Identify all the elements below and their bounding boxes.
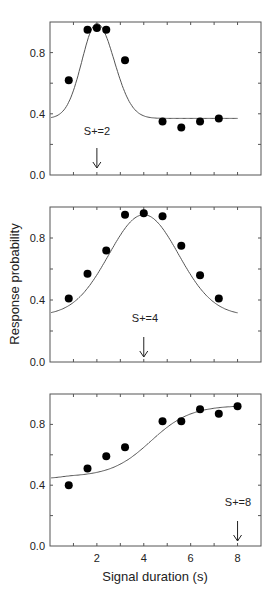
panel-top: 0.00.40.8S+=2 bbox=[30, 22, 261, 181]
data-point bbox=[65, 294, 73, 302]
fit-curve bbox=[51, 406, 237, 478]
data-point bbox=[121, 56, 129, 64]
data-point bbox=[65, 481, 73, 489]
data-point bbox=[234, 402, 242, 410]
data-point bbox=[102, 452, 110, 460]
y-tick-label: 0.4 bbox=[30, 294, 45, 306]
data-point bbox=[102, 26, 110, 34]
fit-curve bbox=[51, 215, 237, 313]
panel-bottom: 0.00.40.82468S+=8 bbox=[30, 394, 261, 564]
data-point bbox=[177, 124, 185, 132]
data-point bbox=[84, 26, 92, 34]
y-tick-label: 0.4 bbox=[30, 479, 45, 491]
data-point bbox=[140, 209, 148, 217]
y-tick-label: 0.4 bbox=[30, 108, 45, 120]
y-tick-label: 0.8 bbox=[30, 47, 45, 59]
data-point bbox=[93, 24, 101, 32]
s-plus-annotation: S+=8 bbox=[225, 496, 251, 508]
plot-frame bbox=[50, 207, 261, 362]
data-point bbox=[215, 410, 223, 418]
y-axis-label: Response probability bbox=[7, 223, 22, 345]
y-tick-label: 0.8 bbox=[30, 418, 45, 430]
fit-curve bbox=[51, 24, 237, 119]
data-point bbox=[215, 114, 223, 122]
data-point bbox=[84, 464, 92, 472]
data-point bbox=[102, 246, 110, 254]
data-point bbox=[121, 211, 129, 219]
x-tick-label: 4 bbox=[141, 552, 147, 564]
data-point bbox=[159, 117, 167, 125]
plot-frame bbox=[50, 22, 261, 175]
data-point bbox=[215, 294, 223, 302]
y-tick-label: 0.8 bbox=[30, 232, 45, 244]
s-plus-annotation: S+=4 bbox=[132, 312, 158, 324]
plot-frame bbox=[50, 394, 261, 546]
data-point bbox=[159, 212, 167, 220]
data-point bbox=[196, 405, 204, 413]
data-point bbox=[196, 117, 204, 125]
panel-middle: 0.00.40.8S+=4 bbox=[30, 207, 261, 368]
x-tick-label: 8 bbox=[234, 552, 240, 564]
x-tick-label: 2 bbox=[94, 552, 100, 564]
data-point bbox=[121, 443, 129, 451]
data-point bbox=[159, 417, 167, 425]
y-tick-label: 0.0 bbox=[30, 356, 45, 368]
data-point bbox=[177, 417, 185, 425]
x-tick-label: 6 bbox=[188, 552, 194, 564]
data-point bbox=[65, 76, 73, 84]
data-point bbox=[177, 242, 185, 250]
figure: 0.00.40.8S+=20.00.40.8S+=40.00.40.82468S… bbox=[0, 0, 276, 590]
x-axis-label: Signal duration (s) bbox=[102, 569, 208, 584]
y-tick-label: 0.0 bbox=[30, 169, 45, 181]
data-point bbox=[196, 271, 204, 279]
data-point bbox=[84, 270, 92, 278]
s-plus-annotation: S+=2 bbox=[84, 125, 110, 137]
y-tick-label: 0.0 bbox=[30, 540, 45, 552]
